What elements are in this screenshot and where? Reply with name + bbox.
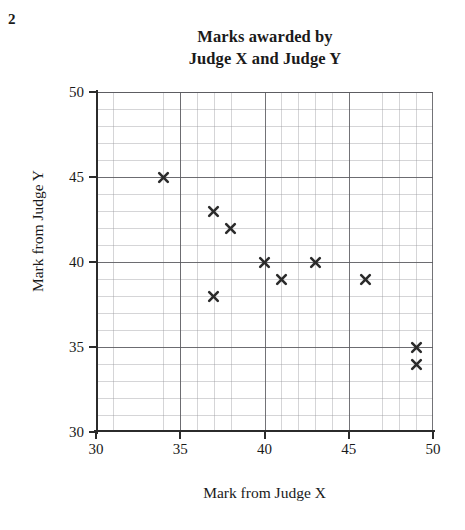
- question-number: 2: [8, 12, 16, 27]
- y-tick-label: 45: [69, 169, 84, 186]
- data-point-marker: [410, 358, 423, 371]
- x-tick: [264, 431, 266, 439]
- scatter-plot-area: 3035404550 3035404550: [96, 92, 433, 432]
- y-tick-label: 50: [69, 84, 84, 101]
- chart-title-line-1: Marks awarded by: [96, 26, 434, 48]
- x-tick-label: 30: [89, 441, 104, 458]
- y-tick-label: 30: [69, 424, 84, 441]
- x-tick-label: 50: [426, 441, 441, 458]
- data-point-marker: [157, 171, 170, 184]
- y-tick: [89, 261, 97, 263]
- x-tick: [432, 431, 434, 439]
- x-tick-label: 35: [173, 441, 188, 458]
- x-tick-label: 45: [341, 441, 356, 458]
- plot-frame-right: [432, 92, 433, 432]
- data-point-marker: [258, 256, 271, 269]
- y-tick-label: 40: [69, 254, 84, 271]
- chart-title: Marks awarded by Judge X and Judge Y: [96, 26, 434, 71]
- y-tick: [89, 176, 97, 178]
- x-tick: [348, 431, 350, 439]
- x-axis-title: Mark from Judge X: [96, 484, 433, 502]
- data-point-marker: [309, 256, 322, 269]
- y-tick: [89, 346, 97, 348]
- plot-frame-top: [96, 92, 433, 93]
- y-axis-title: Mark from Judge Y: [29, 131, 47, 331]
- data-point-marker: [275, 273, 288, 286]
- data-point-marker: [410, 341, 423, 354]
- data-point-marker: [207, 205, 220, 218]
- x-tick-label: 40: [257, 441, 272, 458]
- x-tick: [179, 431, 181, 439]
- chart-title-line-2: Judge X and Judge Y: [96, 48, 434, 70]
- data-point-marker: [207, 290, 220, 303]
- data-point-marker: [359, 273, 372, 286]
- y-tick-label: 35: [69, 339, 84, 356]
- data-point-marker: [224, 222, 237, 235]
- y-tick: [89, 91, 97, 93]
- x-tick: [95, 431, 97, 439]
